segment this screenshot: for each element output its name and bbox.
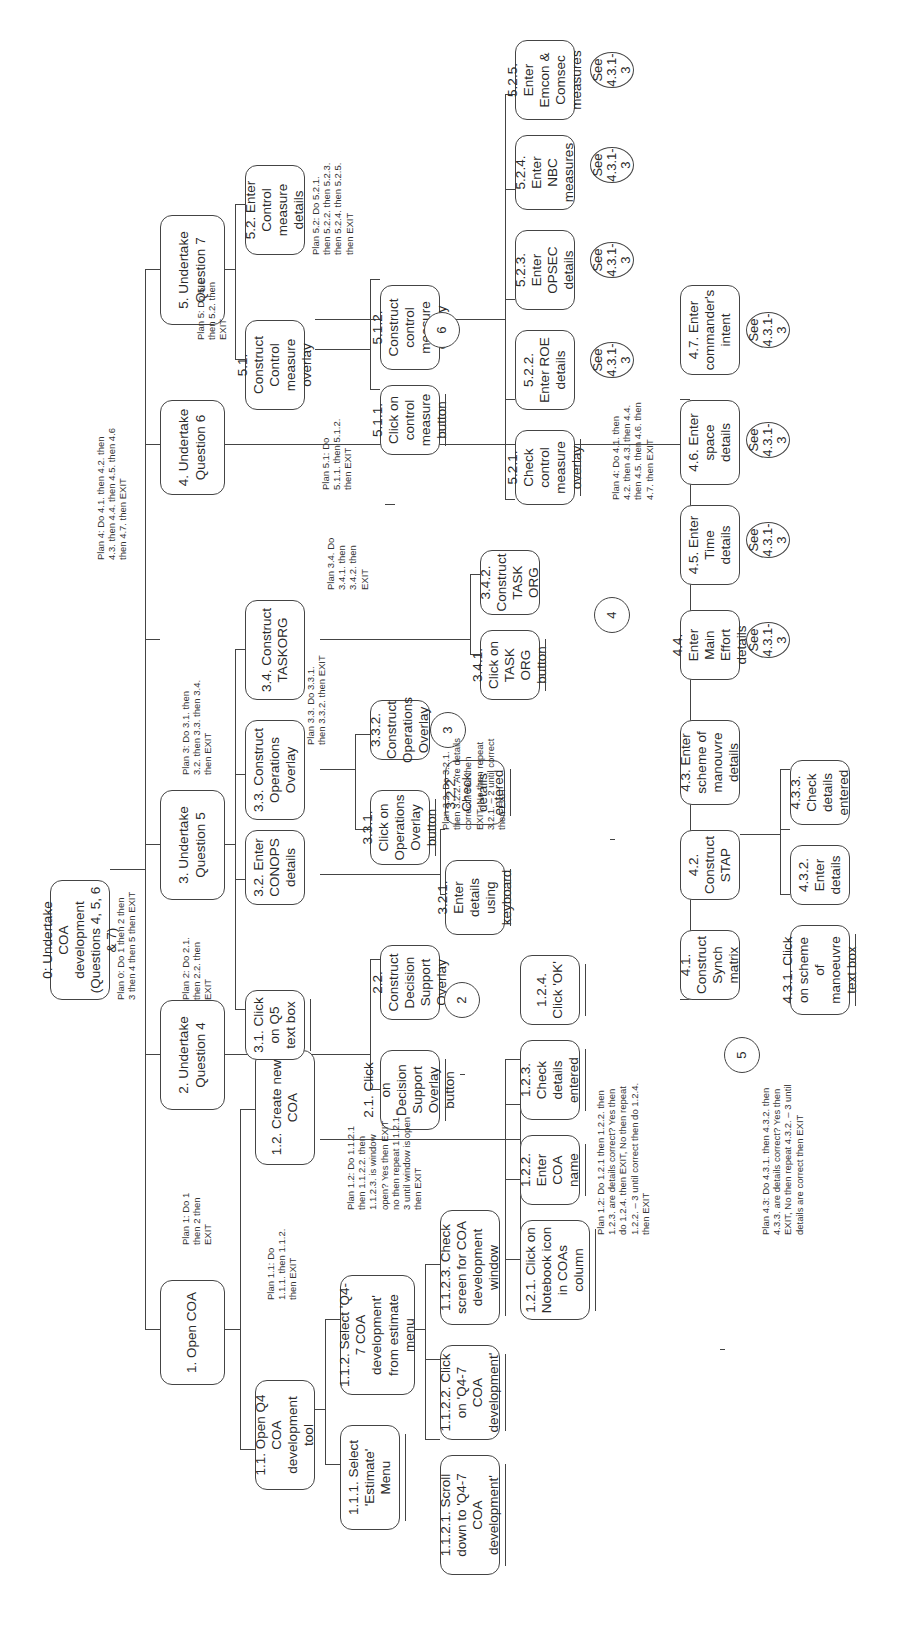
connector-line [235, 1009, 245, 1010]
task-4-2: 4.2. Construct STAP [680, 830, 740, 900]
connector-line [505, 1259, 520, 1260]
see-4-6: See 4.3.1-3 [746, 422, 790, 458]
connector-line [355, 735, 356, 830]
task-5-2-4: 5.2.4. Enter NBC measures [515, 135, 575, 210]
task-3-2: 3.2. Enter CONOPS details [245, 830, 305, 905]
plan-note: Plan 3: Do 3.1. then 3.2. then 3.3. then… [180, 680, 214, 775]
task-2: 2. Undertake Question 4 [160, 1000, 225, 1110]
task-3-4-1-label: 3.4.1. Click on TASK ORG button [470, 636, 551, 694]
task-1-2-1-label: 1.2.1. Click on Notebook icon in COAs co… [523, 1226, 588, 1314]
task-1-1-2-2-label: 1.1.2.2. Click on 'Q4-7 COA development' [438, 1351, 503, 1434]
connector-line [325, 1320, 326, 1465]
task-1-1-1: 1.1.1. Select 'Estimate' Menu [340, 1425, 400, 1530]
task-3-2-1-label: 3.2.1. Enter details using keyboard [435, 866, 516, 929]
connector-line [780, 770, 781, 895]
task-3-4-1: 3.4.1. Click on TASK ORG button [480, 630, 540, 700]
plan-note: Plan 2: Do 2.1. then 2.2. then EXIT [180, 937, 214, 1000]
connector-line [240, 1109, 255, 1110]
connector-5: 5 [724, 1037, 760, 1073]
connector-line [225, 1054, 235, 1055]
connector-line [425, 1265, 426, 1440]
connector-line [505, 499, 515, 500]
task-3-2-1: 3.2.1. Enter details using keyboard [445, 860, 505, 935]
task-5-2: 5.2. Enter Control measure details [245, 165, 305, 255]
plan-note: Plan 4: Do 4.1. then 4.2. then 4.3. then… [610, 402, 655, 500]
connector-line [370, 389, 380, 390]
connector-line [385, 504, 395, 505]
task-3-4-label: 3.4. Construct TASKORG [259, 606, 291, 694]
task-4-1: 4.1. Construct Synch matrix [680, 930, 740, 1000]
task-3-4-2: 3.4.2. Construct TASK ORG [480, 550, 540, 615]
plan-note: Plan 4.3: Do 4.3.1. then 4.3.2. then 4.3… [760, 1084, 805, 1235]
task-5-2-5-label: 5.2.5. Enter Emcon & Comsec measures [505, 46, 586, 114]
see-4-4: See 4.3.1-3 [746, 622, 790, 658]
task-1-1-2-2: 1.1.2.2. Click on 'Q4-7 COA development' [440, 1345, 500, 1440]
connector-line [325, 1464, 340, 1465]
task-0-label: 0: Undertake COA development (Questions … [40, 886, 121, 994]
hta-diagram-layout: 0: Undertake COA development (Questions … [0, 0, 912, 1627]
task-1-2-2-label: 1.2.2. Enter COA name [518, 1141, 583, 1199]
connector-line [460, 1074, 465, 1075]
connector-line [780, 829, 790, 830]
task-4-5-label: 4.5. Enter Time details [686, 511, 735, 579]
connector-line [425, 1439, 440, 1440]
task-3-4-2-label: 3.4.2. Construct TASK ORG [478, 554, 543, 612]
task-5-2-1-label: 5.2.1. Check control measure overlay [505, 436, 586, 499]
connector-line [145, 444, 160, 445]
task-4-3-3-label: 4.3.3. Check details entered [788, 766, 853, 819]
task-1-1-2-1-label: 1.1.2.1. Scroll down to 'Q4-7 COA develo… [438, 1461, 503, 1569]
task-4-1-label: 4.1. Construct Synch matrix [678, 936, 743, 994]
connector-2: 2 [444, 982, 480, 1018]
task-4-label: 4. Undertake Question 6 [176, 406, 208, 489]
connector-line [370, 279, 380, 280]
see-4-5: See 4.3.1-3 [746, 522, 790, 558]
task-3: 3. Undertake Question 5 [160, 790, 225, 900]
connector-line [320, 769, 355, 770]
plan-note: Plan 3.4. Do 3.4.1. then 3.4.2. then EXI… [325, 538, 370, 590]
task-5-2-1: 5.2.1. Check control measure overlay [515, 430, 575, 505]
task-5-1-label: 5.1. Construct Control measure overlay [235, 326, 316, 404]
connector-line [315, 349, 370, 350]
task-1-1-2: 1.1.2. Select 'Q4-7 COA development' fro… [340, 1275, 415, 1395]
task-0: 0: Undertake COA development (Questions … [50, 880, 110, 1000]
task-1-label: 1. Open COA [184, 1292, 200, 1373]
task-5-2-2: 5.2.2. Enter ROE details [515, 330, 575, 410]
task-2-label: 2. Undertake Question 4 [176, 1006, 208, 1104]
task-3-1-label: 3.1. Click on Q5 text box [251, 996, 300, 1054]
plan-note: Plan 5.2: Do 5.2.1. then 5.2.2. then 5.2… [310, 163, 355, 255]
task-1-2-3-label: 1.2.3. Check details entered [518, 1046, 583, 1114]
connector-line [145, 270, 146, 1330]
task-2-2-label: 2.2. Construct Decision Support Overlay [370, 951, 451, 1014]
plan-note: Plan 3.3. Do 3.3.1. then 3.3.2. then EXI… [305, 655, 327, 745]
connector-4: 4 [594, 597, 630, 633]
see-5-2-5: See 4.3.1-3 [590, 52, 634, 88]
task-3-3-2: 3.3.2. Construct Operations Overlay [370, 700, 430, 760]
connector-line [690, 400, 691, 1000]
task-1-1-2-3-label: 1.1.2.3. Check screen for COA developmen… [438, 1216, 503, 1319]
task-4-7-label: 4.7. Enter commander's intent [686, 290, 735, 371]
task-1-1-label: 1.1. Open Q4 COA development tool [253, 1386, 318, 1484]
plan-note: Plan 1.2: Do 1.1.2.1 then 1.1.2.2. then … [345, 1109, 423, 1210]
task-3-3-label: 3.3. Construct Operations Overlay [251, 726, 300, 814]
connector-line [505, 399, 515, 400]
connector-line [235, 879, 245, 880]
task-1-1-2-1: 1.1.2.1. Scroll down to 'Q4-7 COA develo… [440, 1455, 500, 1575]
task-4-3-2: 4.3.2. Enter details [790, 845, 850, 905]
connector-line [235, 649, 245, 650]
task-5-2-5: 5.2.5. Enter Emcon & Comsec measures [515, 40, 575, 120]
connector-line [610, 839, 615, 840]
connector-line [145, 1329, 160, 1330]
task-3-3-2-label: 3.3.2. Construct Operations Overlay [368, 697, 433, 763]
task-5-2-2-label: 5.2.2. Enter ROE details [521, 336, 570, 404]
task-4-2-label: 4.2. Construct STAP [686, 836, 735, 894]
task-1-2: 1.2. Create new COA [255, 1050, 315, 1165]
connector-line [320, 874, 440, 875]
task-1-2-label: 1.2. Create new COA [269, 1056, 301, 1159]
plan-note: Plan 0: Do 1 then 2 then 3 then 4 then 5… [115, 892, 137, 1000]
task-5-2-label: 5.2. Enter Control measure details [243, 171, 308, 249]
task-3-label: 3. Undertake Question 5 [176, 796, 208, 894]
connector-line [235, 650, 236, 1010]
connector-line [225, 269, 235, 270]
connector-line [240, 1110, 241, 1450]
connector-line [225, 444, 235, 445]
